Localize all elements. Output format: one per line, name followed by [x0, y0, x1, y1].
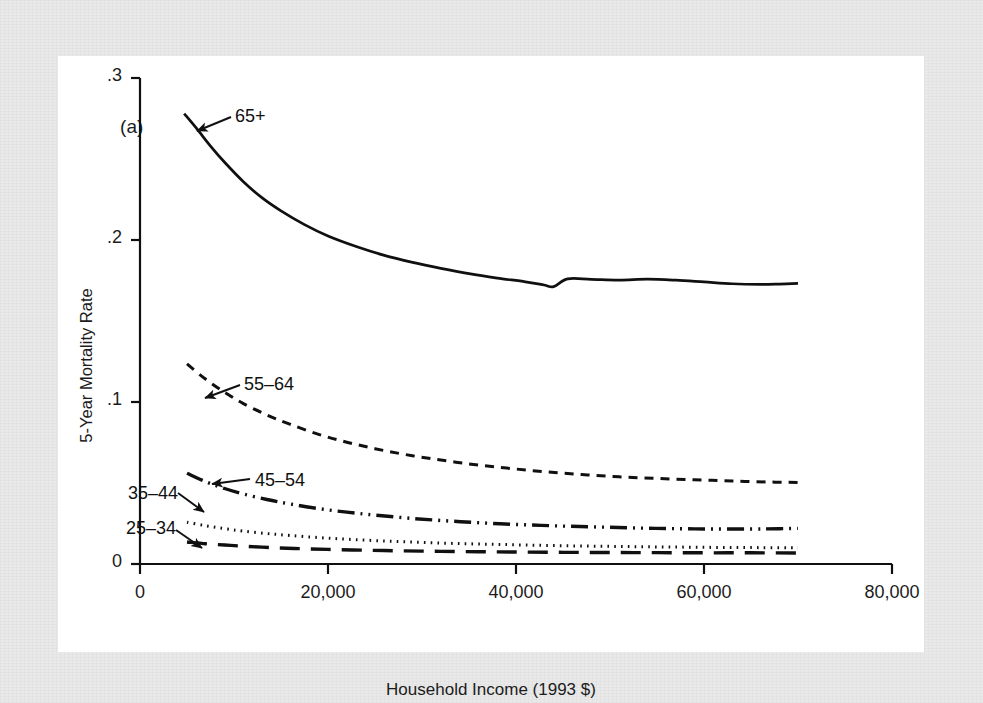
- x-axis-title: Household Income (1993 $): [58, 680, 924, 700]
- y-tick-label: .1: [76, 389, 122, 410]
- x-tick-label: 60,000: [634, 582, 774, 603]
- axes-group: [131, 78, 892, 574]
- series-label-25-34: 25–34: [126, 518, 176, 539]
- x-tick-label: 20,000: [258, 582, 398, 603]
- series-label-65-: 65+: [235, 106, 266, 127]
- y-tick-label: .2: [76, 227, 122, 248]
- annotation-group: [176, 117, 250, 548]
- series-line-65-: [184, 114, 798, 287]
- x-tick-label: 80,000: [822, 582, 962, 603]
- x-tick-label: 0: [70, 582, 210, 603]
- series-label-35-44: 35–44: [128, 483, 178, 504]
- annotation-arrow: [176, 530, 202, 548]
- series-label-55-64: 55–64: [244, 374, 294, 395]
- annotation-arrow: [178, 493, 204, 512]
- y-tick-label: 0: [76, 551, 122, 572]
- series-label-45-54: 45–54: [255, 470, 305, 491]
- annotation-arrow: [197, 117, 231, 131]
- annotation-arrow: [205, 385, 240, 398]
- y-tick-label: .3: [76, 65, 122, 86]
- annotation-arrow: [212, 479, 250, 484]
- x-tick-label: 40,000: [446, 582, 586, 603]
- chart-canvas: [58, 56, 924, 652]
- figure-root: (a) 5-Year Mortality Rate Household Inco…: [0, 0, 983, 703]
- series-line-35-44: [187, 522, 798, 548]
- plot-panel: (a) 5-Year Mortality Rate Household Inco…: [58, 56, 924, 652]
